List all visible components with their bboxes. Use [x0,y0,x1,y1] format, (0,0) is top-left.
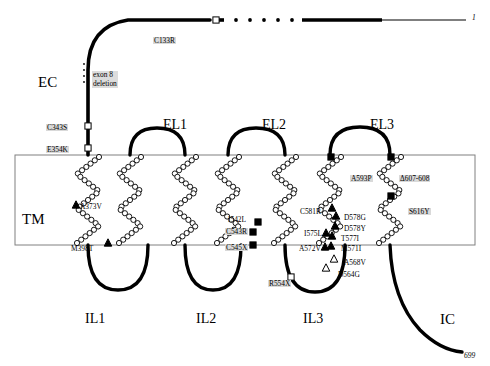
marker-E354K [85,145,91,151]
loop-label-IL3: IL3 [303,312,323,326]
c-terminal-tail [390,245,462,352]
marker-I575L [322,229,330,236]
marker-C581R [328,204,336,211]
mutation-label-A373V: A373V [80,203,102,210]
loop-label-EL2: EL2 [262,118,286,132]
marker-C545X [250,242,256,248]
mutation-label-A572V: A572V [299,245,321,252]
tm-helix-3 [171,154,198,245]
terminus-label-n-terminus: 1 [472,14,476,22]
marker-A568V [330,255,338,262]
mutation-label-I575L: I575L [304,230,322,237]
mutation-label-C581R: C581R [300,208,321,215]
exon8-bracket [83,63,85,83]
marker-D578G [332,212,340,219]
loop-IL1 [88,245,148,290]
tm-helix-7 [376,154,403,245]
region-label-EC: EC [38,75,57,90]
mutation-label-M398T: M398T [71,245,93,252]
marker-M398T [104,239,112,246]
topology-svg [0,0,490,366]
tm-helix-5 [271,154,298,245]
marker-C543R [250,229,256,235]
mutation-label-D578Y: D578Y [344,225,366,232]
mutation-label-E354K: E354K [46,146,69,153]
mutation-label-R554X: R554X [268,280,291,287]
region-label-TM: TM [22,212,45,227]
marker-D564G [322,264,330,271]
mutation-label-C543R: C543R [225,228,248,235]
tm-helix-1 [74,154,101,245]
mutation-label-D578G: D578G [344,214,366,221]
mutation-label-M571I: M571I [341,245,361,252]
exon8-deletion-line2: deletion [92,80,118,89]
mutation-label-D564G: D564G [338,271,360,278]
tm-helix-2 [116,154,143,245]
loop-label-EL3: EL3 [370,118,394,132]
marker-I542L [255,219,261,225]
loop-label-IL2: IL2 [196,312,216,326]
loop-label-IL1: IL1 [85,312,105,326]
mutation-label-C133R: C133R [153,37,176,44]
mutation-label-C343S: C343S [46,124,68,131]
mutation-label-T577I: T577I [341,235,359,242]
mutation-label-A568V: A568V [344,259,366,266]
mutation-label-I542L: I542L [228,216,246,223]
mutation-label-607-608: Δ607-608 [399,175,430,182]
marker-Δ607-608 [388,154,394,160]
marker-A593P [328,154,334,160]
region-label-IC: IC [440,312,455,327]
mutation-label-S616Y: S616Y [408,208,431,215]
mutation-label-A593P: A593P [350,175,373,182]
mutation-label-C545X: C545X [225,244,248,251]
marker-S616Y [388,193,394,199]
loop-EL1 [130,128,185,155]
marker-A572V [321,243,329,250]
marker-C343S [85,123,91,129]
terminus-label-c-terminus: 699 [464,352,475,360]
loop-EL2 [228,128,285,155]
marker-C133R [213,17,219,23]
figure-canvas: C133RC343SE354KA373VM398TI542LC543RC545X… [0,0,490,366]
exon8-deletion-label: exon 8deletion [92,71,118,88]
loop-label-EL1: EL1 [163,118,187,132]
